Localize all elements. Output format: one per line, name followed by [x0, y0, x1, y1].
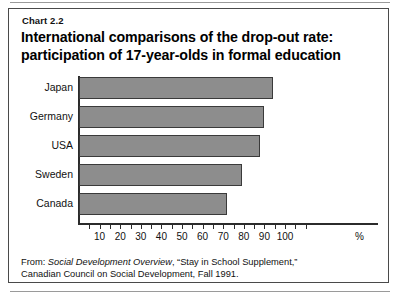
bar-category-label: Germany: [9, 110, 73, 122]
bar-category-label: Japan: [9, 81, 73, 93]
x-axis-tick: [141, 224, 142, 229]
percent-axis-label: %: [355, 231, 364, 242]
x-axis-tick-label: 20: [115, 231, 126, 242]
chart-title-line-1: International comparisons of the drop-ou…: [21, 28, 381, 46]
bar-row: Germany: [9, 106, 390, 128]
x-axis-tick-label: 70: [218, 231, 229, 242]
source-note-line-1: From: Social Development Overview, “Stay…: [21, 257, 381, 269]
x-axis-tick-label: 30: [135, 231, 146, 242]
x-axis-tick: [295, 224, 296, 229]
bar-rect: [79, 164, 242, 186]
x-axis-tick: [234, 224, 235, 229]
bar-row: USA: [9, 135, 390, 157]
bar-rect: [79, 135, 260, 157]
x-axis-tick: [203, 224, 204, 229]
source-prefix: From:: [21, 257, 48, 267]
x-axis-tick-label: 80: [238, 231, 249, 242]
bar-rect: [79, 106, 264, 128]
x-axis-tick: [172, 224, 173, 229]
page-rule-bottom: [10, 291, 390, 292]
source-publication-title: Social Development Overview: [48, 257, 172, 267]
x-axis-tick-label: 90: [259, 231, 270, 242]
x-axis-tick-label: 10: [94, 231, 105, 242]
chart-title: International comparisons of the drop-ou…: [21, 28, 381, 64]
x-axis-tick-label: 60: [197, 231, 208, 242]
x-axis-tick: [151, 224, 152, 229]
bar-row: Sweden: [9, 164, 390, 186]
x-axis-tick: [285, 224, 286, 229]
bar-rect: [79, 77, 273, 99]
x-axis-tick: [213, 224, 214, 229]
x-axis-tick: [254, 224, 255, 229]
page-rule-top: [10, 2, 390, 3]
chart-title-line-2: participation of 17-year-olds in formal …: [21, 46, 381, 64]
x-axis-tick: [244, 224, 245, 229]
x-axis-tick: [120, 224, 121, 229]
x-axis-tick-label: 100: [277, 231, 294, 242]
category-axis-line: [78, 223, 378, 225]
source-suffix: , “Stay in School Supplement,”: [172, 257, 298, 267]
x-axis-tick-label: 40: [156, 231, 167, 242]
x-axis-tick: [89, 224, 90, 229]
source-note-line-2: Canadian Council on Social Development, …: [21, 269, 381, 281]
x-axis-tick: [182, 224, 183, 229]
chart-number-label: Chart 2.2: [22, 15, 64, 26]
source-note: From: Social Development Overview, “Stay…: [21, 257, 381, 280]
x-axis-tick: [131, 224, 132, 229]
x-axis-tick: [264, 224, 265, 229]
x-axis-tick: [161, 224, 162, 229]
x-axis-tick: [275, 224, 276, 229]
plot-area: JapanGermanyUSASwedenCanada 102030405060…: [9, 73, 390, 248]
bar-category-label: USA: [9, 139, 73, 151]
x-axis-tick: [100, 224, 101, 229]
x-axis-tick: [110, 224, 111, 229]
bar-row: Japan: [9, 77, 390, 99]
x-axis-tick-label: 50: [176, 231, 187, 242]
x-axis-tick: [306, 224, 307, 229]
x-axis-tick: [223, 224, 224, 229]
x-axis-tick: [192, 224, 193, 229]
bar-row: Canada: [9, 193, 390, 215]
bar-rect: [79, 193, 227, 215]
bar-category-label: Sweden: [9, 168, 73, 180]
chart-figure-frame: Chart 2.2 International comparisons of t…: [8, 8, 389, 283]
bar-category-label: Canada: [9, 197, 73, 209]
